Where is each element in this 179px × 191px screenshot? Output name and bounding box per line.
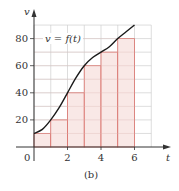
x-tick-label: 2 bbox=[64, 152, 70, 163]
figure-caption: (b) bbox=[84, 169, 98, 180]
rectangle bbox=[34, 133, 51, 147]
y-tick-label: 40 bbox=[15, 87, 28, 98]
y-axis-label: v bbox=[24, 6, 30, 17]
x-axis-arrow-icon bbox=[163, 145, 171, 150]
riemann-sum-chart: 24620406080 v t 0 v = f(t) (b) bbox=[0, 0, 179, 191]
y-tick-label: 60 bbox=[15, 60, 28, 71]
origin-label: 0 bbox=[24, 152, 30, 163]
x-axis-label: t bbox=[166, 152, 171, 163]
y-tick-label: 20 bbox=[15, 114, 28, 125]
curve-annotation: v = f(t) bbox=[45, 33, 81, 44]
x-tick-label: 4 bbox=[98, 152, 104, 163]
y-axis-arrow-icon bbox=[32, 9, 37, 17]
rectangle bbox=[101, 52, 118, 147]
x-tick-label: 6 bbox=[131, 152, 137, 163]
y-tick-label: 80 bbox=[15, 33, 28, 44]
